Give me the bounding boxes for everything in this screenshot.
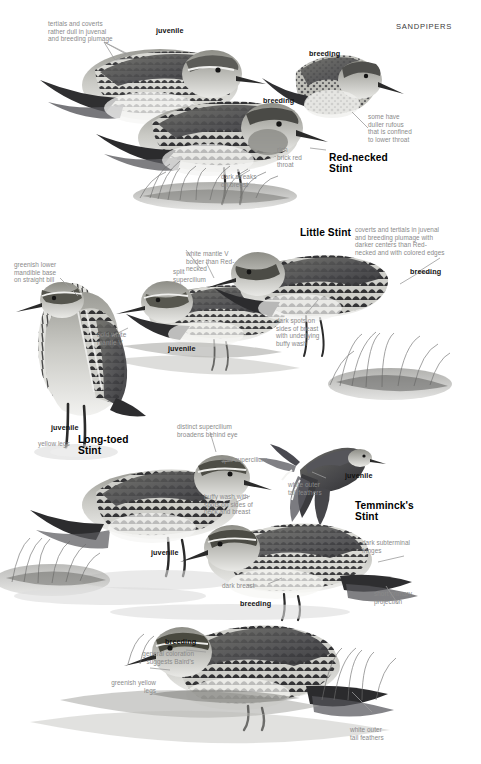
label-juvenile-long-toed: juvenile [51, 424, 79, 432]
label-breeding-red-necked: breeding [263, 97, 294, 105]
label-juvenile-red-necked: juvenile [156, 27, 184, 35]
species-name-long-toed-stint: Long-toed Stint [78, 434, 129, 457]
annotation-tertials-coverts-dull: tertials and coverts rather dull in juve… [48, 20, 158, 43]
annotation-white-outer-tail-feathers-bottom: white outer tail feathers [350, 726, 408, 741]
annotation-duller-rufous: some have duller rufous that is confined… [368, 113, 464, 143]
annotation-bold-white-mantle-v: bold white mantle V [97, 331, 151, 346]
label-breeding-long-toed: juvenile [151, 549, 179, 557]
label-juvenile-little-stint: juvenile [168, 345, 196, 353]
annotation-split-supercilium-longtoed: split supercilium [221, 456, 291, 464]
species-name-temmincks-stint: Temminck's Stint [355, 500, 414, 523]
annotation-distinct-supercilium: distinct supercilium broadens behind eye [177, 423, 279, 438]
label-breeding-red-necked-small: breeding [309, 50, 340, 58]
annotation-short-primary-projection: short primary projection [374, 590, 440, 605]
annotation-dark-subterminal-fringes: dark subterminal fringes [362, 539, 436, 554]
label-breeding-little-stint: breeding [410, 268, 441, 276]
annotation-coverts-tertials-darker: coverts and tertials in juvenal and bree… [355, 226, 479, 256]
annotation-split-supercilium-little: split supercilium [173, 268, 225, 283]
species-name-little-stint: Little Stint [300, 227, 351, 238]
annotation-white-outer-tail-feathers-temminck: white outer tail feathers [288, 481, 344, 496]
species-name-red-necked-stint: Red-necked Stint [329, 152, 388, 175]
label-juvenile-bottom: breeding [240, 600, 271, 608]
annotation-buffy-wash-spots: buffy wash with spots on sides of neck a… [204, 493, 274, 516]
annotation-general-coloration-bairds: general coloration suggests Baird's [110, 650, 194, 665]
annotation-greenish-lower-mandible: greenish lower mandible base on straight… [14, 261, 88, 284]
field-guide-plate: SANDPIPERS tertials and coverts rather d… [0, 0, 481, 764]
annotation-dark-breast: dark breast [222, 582, 278, 590]
label-juvenile-temmincks-flight: juvenile [345, 472, 373, 480]
ground-strip-middle [110, 342, 300, 374]
vegetation-clump-middle-right [328, 332, 452, 400]
page-header: SANDPIPERS [396, 22, 452, 31]
annotation-dark-streaks-breast: dark streaks on breast [221, 173, 281, 188]
annotation-dark-spots-sides-breast: dark spots on sides of breast with under… [276, 317, 346, 347]
annotation-rich-brick-red-throat: rich brick red throat [277, 146, 327, 169]
annotation-greenish-yellow-legs: greenish yellow legs [84, 679, 156, 694]
label-breeding-bottom: breeding [165, 638, 196, 646]
